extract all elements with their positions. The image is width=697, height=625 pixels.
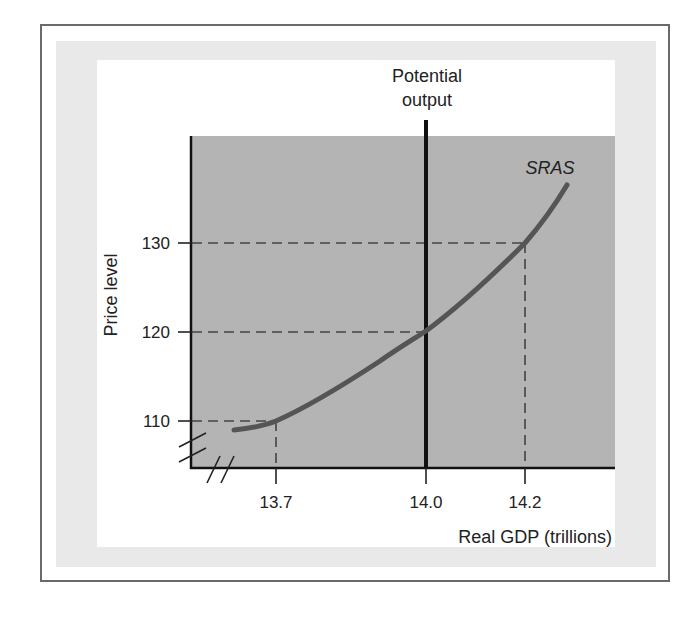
x-axis-label: Real GDP (trillions) <box>458 527 612 547</box>
x-ticks <box>276 468 525 484</box>
x-tick-label-14-0: 14.0 <box>409 493 442 512</box>
y-axis-label: Price level <box>101 253 121 336</box>
potential-output-label-line1: Potential <box>392 66 462 86</box>
y-tick-label-130: 130 <box>142 234 170 253</box>
sras-chart: Potential output SRAS 130 120 110 13.7 1… <box>0 0 697 625</box>
plot-background <box>191 136 615 468</box>
potential-output-label-line2: output <box>402 90 452 110</box>
y-tick-label-120: 120 <box>142 323 170 342</box>
y-tick-label-110: 110 <box>143 412 170 431</box>
x-tick-label-14-2: 14.2 <box>508 493 541 512</box>
sras-label: SRAS <box>525 158 574 178</box>
x-tick-label-13-7: 13.7 <box>259 493 292 512</box>
